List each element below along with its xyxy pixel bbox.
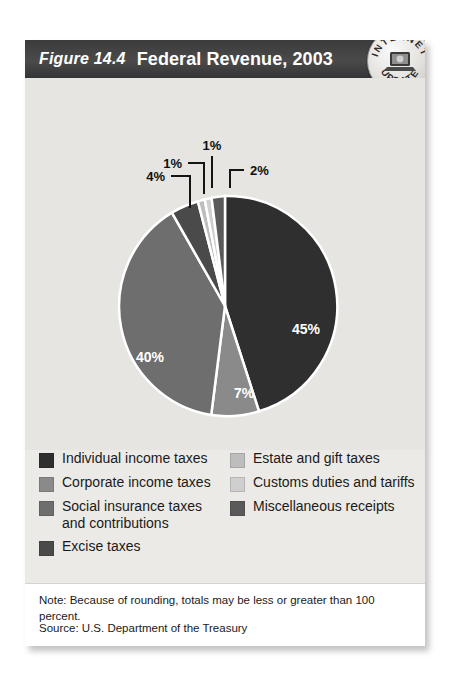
leader-line-misc — [230, 170, 244, 188]
pie-label-45: 45% — [292, 321, 321, 337]
legend-item-excise-taxes[interactable]: Excise taxes — [39, 538, 229, 556]
pie-label-2: 2% — [250, 163, 269, 178]
pie-slices — [119, 196, 337, 416]
chart-area: 45% 40% 7% 4% 1% 1% 2% — [25, 78, 425, 450]
legend-swatch — [230, 477, 245, 492]
legend-column-right: Estate and gift taxes Customs duties and… — [230, 450, 415, 522]
chart-legend: Individual income taxes Corporate income… — [25, 450, 425, 580]
legend-swatch — [230, 501, 245, 516]
legend-item-estate-and-gift-taxes[interactable]: Estate and gift taxes — [230, 450, 415, 468]
legend-label: Estate and gift taxes — [253, 450, 380, 467]
legend-item-individual-income-taxes[interactable]: Individual income taxes — [39, 450, 229, 468]
legend-swatch — [39, 541, 54, 556]
legend-label: Corporate income taxes — [62, 474, 211, 491]
legend-label: Social insurance taxes and contributions — [62, 498, 229, 532]
legend-swatch — [39, 477, 54, 492]
figure-number: Figure 14.4 — [39, 50, 126, 68]
pie-label-1-customs: 1% — [203, 138, 222, 153]
figure-card: Figure 14.4 Federal Revenue, 2003 INTERN… — [25, 40, 425, 646]
pie-chart: 45% 40% 7% 4% 1% 1% 2% — [25, 78, 425, 450]
legend-item-corporate-income-taxes[interactable]: Corporate income taxes — [39, 474, 229, 492]
leader-line-excise — [171, 176, 190, 208]
page-title: Federal Revenue, 2003 — [137, 49, 333, 70]
legend-label: Excise taxes — [62, 538, 141, 555]
legend-label: Miscellaneous receipts — [253, 498, 395, 515]
legend-item-customs-duties-and-tariffs[interactable]: Customs duties and tariffs — [230, 474, 415, 492]
pie-label-40: 40% — [136, 349, 165, 365]
legend-swatch — [230, 453, 245, 468]
figure-footer: Note: Because of rounding, totals may be… — [25, 583, 425, 646]
figure-note: Note: Because of rounding, totals may be… — [39, 593, 414, 624]
computer-icon — [384, 52, 416, 71]
figure-title-bar: Figure 14.4 Federal Revenue, 2003 — [25, 40, 425, 78]
pie-label-1-estate: 1% — [163, 156, 182, 171]
legend-item-miscellaneous-receipts[interactable]: Miscellaneous receipts — [230, 498, 415, 516]
legend-swatch — [39, 501, 54, 516]
pie-label-7: 7% — [234, 385, 255, 401]
figure-source: Source: U.S. Department of the Treasury — [39, 622, 414, 634]
legend-label: Individual income taxes — [62, 450, 208, 467]
legend-column-left: Individual income taxes Corporate income… — [39, 450, 229, 562]
legend-item-social-insurance-taxes[interactable]: Social insurance taxes and contributions — [39, 498, 229, 532]
legend-label: Customs duties and tariffs — [253, 474, 415, 491]
legend-swatch — [39, 453, 54, 468]
pie-label-4: 4% — [146, 169, 165, 184]
